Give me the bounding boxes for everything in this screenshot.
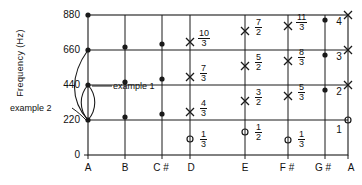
x-tick-csharp: C # [146, 162, 176, 173]
x-tick-gsharp: G # [308, 162, 338, 173]
label-d-1-3-den: 3 [200, 140, 207, 149]
label-f-5-3: 5 3 [298, 83, 305, 102]
label-f-1-3: 1 3 [298, 130, 305, 149]
y-tick-440: 440 [46, 79, 80, 90]
label-a2-1: 1 [332, 124, 346, 135]
label-f-1-3-den: 3 [298, 140, 305, 149]
callout-example-1: example 1 [113, 81, 155, 91]
y-tick-880: 880 [46, 9, 80, 20]
label-e-3-2-den: 2 [255, 98, 262, 107]
label-f-5-3-den: 3 [298, 93, 305, 102]
label-f-11-3: 11 3 [296, 13, 307, 32]
label-a2-3: 3 [332, 51, 346, 62]
label-d-10-3-den: 3 [198, 39, 210, 48]
label-d-10-3: 10 3 [198, 29, 210, 48]
x-tick-b: B [110, 162, 140, 173]
y-tick-0: 0 [46, 149, 80, 160]
label-f-8-3-den: 3 [298, 58, 305, 67]
label-e-1-2: 1 2 [255, 123, 262, 142]
label-e-5-2: 5 2 [255, 53, 262, 72]
label-e-5-2-den: 2 [255, 63, 262, 72]
label-e-7-2-den: 2 [255, 28, 262, 37]
x-tick-e: E [230, 162, 260, 173]
label-d-4-3: 4 3 [200, 99, 207, 118]
label-f-8-3: 8 3 [298, 48, 305, 67]
label-d-4-3-den: 3 [200, 109, 207, 118]
y-tick-660: 660 [46, 44, 80, 55]
x-tick-d: D [176, 162, 206, 173]
y-tick-220: 220 [46, 114, 80, 125]
callout-example-2: example 2 [10, 103, 52, 113]
x-tick-a2: A [336, 162, 362, 173]
x-tick-fsharp: F # [272, 162, 302, 173]
label-a2-4: 4 [332, 16, 346, 27]
label-e-3-2: 3 2 [255, 88, 262, 107]
label-e-1-2-den: 2 [255, 133, 262, 142]
label-e-7-2: 7 2 [255, 18, 262, 37]
label-d-7-3: 7 3 [200, 64, 207, 83]
frequency-chart: Frequency (Hz) 880 660 440 220 0 A B C #… [0, 0, 362, 185]
label-d-1-3: 1 3 [200, 130, 207, 149]
label-a2-2: 2 [332, 86, 346, 97]
label-f-11-3-den: 3 [296, 23, 307, 32]
x-tick-a1: A [73, 162, 103, 173]
label-d-7-3-den: 3 [200, 74, 207, 83]
